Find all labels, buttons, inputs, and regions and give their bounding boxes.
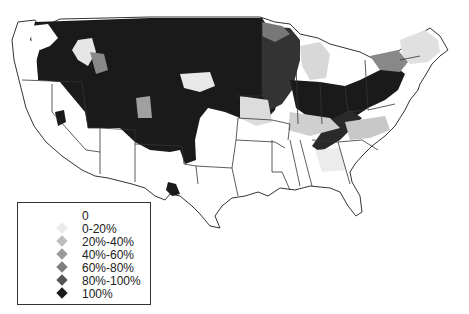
legend-item-5: 80%-100% bbox=[18, 274, 141, 287]
legend-swatch-icon bbox=[56, 235, 69, 248]
legend-swatch-icon bbox=[56, 222, 69, 235]
legend-swatch-icon bbox=[56, 287, 69, 300]
legend-swatch-icon bbox=[56, 248, 69, 261]
legend-label: 20%-40% bbox=[82, 235, 134, 249]
legend-label: 0 bbox=[82, 209, 89, 223]
map-legend: 0 0-20% 20%-40% 40%-60% 60%-80% 80%-100%… bbox=[17, 202, 151, 305]
legend-label: 100% bbox=[82, 287, 113, 301]
legend-item-6: 100% bbox=[18, 287, 113, 300]
legend-label: 0-20% bbox=[82, 222, 117, 236]
region-0-or-coast bbox=[20, 52, 38, 80]
legend-swatch-icon bbox=[56, 261, 69, 274]
legend-label: 80%-100% bbox=[82, 274, 141, 288]
region-mid-co bbox=[136, 96, 152, 118]
legend-item-1: 0-20% bbox=[18, 222, 117, 235]
legend-item-0: 0 bbox=[18, 209, 89, 222]
legend-label: 40%-60% bbox=[82, 248, 134, 262]
legend-swatch-icon bbox=[56, 274, 69, 287]
legend-item-4: 60%-80% bbox=[18, 261, 134, 274]
legend-item-3: 40%-60% bbox=[18, 248, 134, 261]
legend-swatch-icon bbox=[56, 209, 69, 222]
legend-label: 60%-80% bbox=[82, 261, 134, 275]
legend-item-2: 20%-40% bbox=[18, 235, 134, 248]
